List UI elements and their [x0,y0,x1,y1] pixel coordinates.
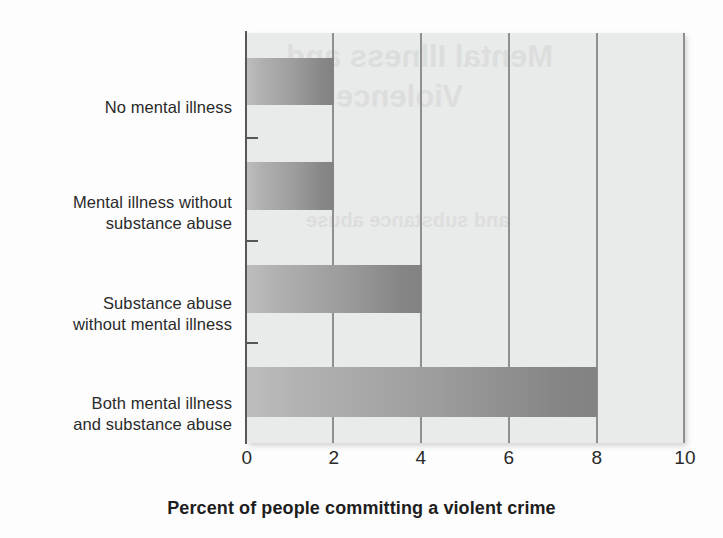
x-axis-tick-label-6: 6 [504,447,515,469]
bar-substance-abuse-without-mental-illness [247,265,422,313]
y-axis-label-0: No mental illness [0,97,232,118]
x-axis-tick-label-4: 4 [416,447,427,469]
y-axis-tick-1 [247,240,258,242]
plot-area: Mental Illness and Violence and substanc… [246,33,684,443]
bleed-line-1: Violence [336,79,463,115]
bar-mental-illness-without-substance-abuse [247,162,334,210]
y-axis-category-labels: No mental illness Mental illness without… [0,33,232,443]
x-axis-tick-label-2: 2 [329,447,340,469]
y-axis-label-2: Substance abuse without mental illness [0,293,232,335]
bar-no-mental-illness [247,58,334,105]
y-axis-label-3: Both mental illness and substance abuse [0,393,232,435]
bleed-line-2: and substance abuse [306,209,509,232]
y-axis-tick-0 [247,137,258,139]
y-axis-tick-2 [247,342,258,344]
x-axis-tick-label-0: 0 [242,447,253,469]
y-axis-label-1: Mental illness without substance abuse [0,192,232,234]
x-axis-tick-labels: 0 2 4 6 8 10 [246,447,684,475]
y-axis-line [245,31,247,444]
figure: No mental illness Mental illness without… [0,0,723,538]
x-axis-tick-label-10: 10 [674,447,696,469]
gridline-10 [683,33,685,443]
bar-both-mental-illness-and-substance-abuse [247,367,597,417]
x-axis-title: Percent of people committing a violent c… [0,498,723,519]
x-axis-tick-label-8: 8 [592,447,603,469]
